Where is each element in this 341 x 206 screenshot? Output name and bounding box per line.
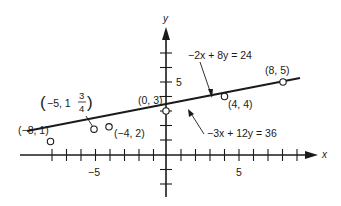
- point-8-5: [280, 79, 286, 85]
- point-label-4-4: (4, 4): [228, 98, 253, 110]
- equation-2-label: −3x + 12y = 36: [207, 127, 277, 139]
- point-neg8-1: [47, 138, 53, 144]
- equation-2-arrow: [188, 109, 204, 134]
- point-label-0-3: (0, 3): [138, 94, 163, 106]
- fraction-numerator: 3: [79, 90, 84, 101]
- x-tick-label-neg5: −5: [88, 166, 100, 178]
- x-axis: x −5 5: [20, 149, 328, 178]
- point-4-4: [221, 93, 227, 99]
- y-tick-label-5: 5: [176, 76, 182, 88]
- point-label-neg5-prefix: −5, 1: [47, 97, 71, 109]
- equation-1-label: −2x + 8y = 24: [188, 49, 252, 61]
- point-0-3: [163, 108, 169, 114]
- equation-1-arrow: [200, 62, 213, 98]
- point-label-neg4-2: (−4, 2): [114, 127, 145, 139]
- arrowhead-icon: [188, 109, 194, 117]
- fraction-denominator: 4: [79, 103, 84, 114]
- point-neg5-1-75: [91, 126, 97, 132]
- point-neg4-2: [106, 124, 112, 130]
- point-label-8-5: (8, 5): [265, 64, 290, 76]
- graph-canvas: x −5 5 y 5 −2x + 8y = 24 −: [0, 0, 341, 206]
- y-axis-label: y: [162, 13, 169, 24]
- x-axis-label: x: [321, 149, 328, 160]
- x-axis-arrow-icon: [305, 151, 318, 159]
- open-paren: (: [40, 93, 46, 112]
- close-paren: ): [87, 93, 93, 112]
- y-axis-arrow-icon: [162, 27, 170, 40]
- point-label-neg5: ( −5, 1 3 4 ): [40, 90, 93, 114]
- point-label-neg8-1: (−8, 1): [18, 124, 49, 136]
- x-tick-label-5: 5: [236, 166, 242, 178]
